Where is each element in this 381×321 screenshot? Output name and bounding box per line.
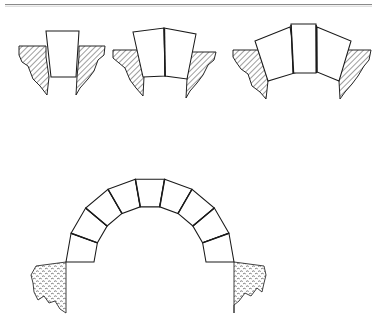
figure-stage-1: [19, 31, 105, 95]
diagram-canvas: [0, 0, 381, 321]
main-arch-abutment-left: [31, 262, 66, 313]
main-arch-voussoirs: [66, 179, 234, 262]
figure-stage-2: [113, 28, 216, 98]
stage1-abutment-left: [19, 46, 49, 95]
stage3-joint-right: [316, 25, 317, 73]
arch-diagram-root: [0, 0, 381, 321]
stage3-voussoir-center: [291, 24, 316, 73]
header-rule-group: [5, 5, 372, 7]
stage1-voussoir-center: [46, 31, 79, 77]
figure-stage-3: [233, 24, 371, 99]
stage1-abutment-right: [76, 46, 105, 95]
main-arch-abutment-right: [234, 262, 266, 313]
main-arch-abutments: [31, 262, 266, 313]
stage2-joint-center: [164, 29, 165, 77]
